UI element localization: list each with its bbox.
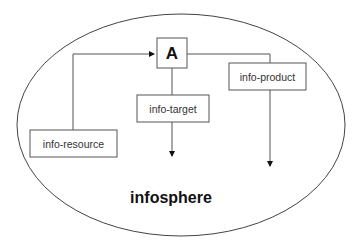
node-info-resource: info-resource xyxy=(30,130,117,157)
node-info-target-label: info-target xyxy=(149,103,196,115)
edge-a-to-product xyxy=(187,54,270,63)
infosphere-diagram: A info-resource info-target info-product… xyxy=(0,0,359,246)
infosphere-label: infosphere xyxy=(130,189,212,206)
node-a-label: A xyxy=(166,44,178,63)
node-info-product-label: info-product xyxy=(240,71,296,83)
node-info-product: info-product xyxy=(229,63,306,90)
node-info-resource-label: info-resource xyxy=(43,138,104,150)
node-info-target: info-target xyxy=(137,95,209,122)
node-a: A xyxy=(157,38,187,68)
